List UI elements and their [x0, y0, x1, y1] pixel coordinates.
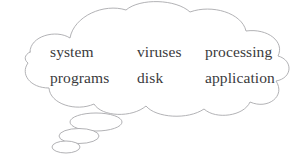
word-disk: disk	[137, 69, 163, 86]
word-application: application	[205, 69, 275, 86]
word-processing: processing	[205, 43, 272, 60]
word-viruses: viruses	[137, 43, 182, 60]
word-system: system	[50, 43, 94, 60]
word-programs: programs	[50, 69, 109, 86]
diagram-canvas: system viruses processing programs disk …	[0, 0, 297, 159]
word-layer: system viruses processing programs disk …	[0, 0, 297, 159]
